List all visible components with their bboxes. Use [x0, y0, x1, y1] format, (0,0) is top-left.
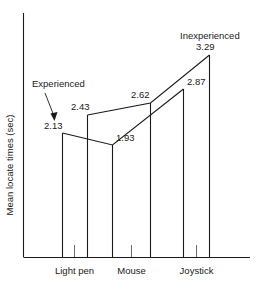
mean-locate-times-chart: Mean locate times (sec) Light pen Mouse … — [0, 0, 262, 286]
value-label-joystick-inexperienced: 3.29 — [196, 41, 215, 52]
value-label-mouse-inexperienced: 2.62 — [131, 89, 150, 100]
x-axis-label-joystick: Joystick — [180, 265, 214, 276]
x-axis-label-light-pen: Light pen — [55, 265, 94, 276]
x-axis-label-mouse: Mouse — [117, 265, 146, 276]
value-label-light-pen-inexperienced: 2.43 — [71, 101, 90, 112]
y-axis-label: Mean locate times (sec) — [4, 115, 15, 216]
value-label-joystick-experienced: 2.87 — [187, 76, 206, 87]
value-label-mouse-experienced: 1.93 — [116, 132, 135, 143]
annotation-arrow-experienced — [45, 93, 54, 116]
chart-container: Mean locate times (sec) Light pen Mouse … — [0, 0, 262, 286]
annotation-inexperienced: Inexperienced — [180, 30, 240, 41]
annotation-experienced: Experienced — [32, 78, 85, 89]
value-label-light-pen-experienced: 2.13 — [44, 120, 63, 131]
